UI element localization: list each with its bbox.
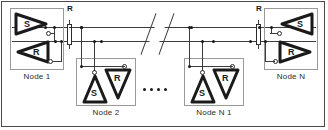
junction-dot-node1-top: [53, 26, 56, 29]
ellipsis-dot-1: [143, 88, 146, 91]
ellipsis-dot-3: [157, 88, 160, 91]
resistor-right-lead-bottom: [258, 44, 259, 49]
junction-dot-bus-right-b: [249, 40, 252, 43]
junction-dot-resistor-left-top: [80, 26, 83, 29]
node2-receiver-riser: [81, 28, 82, 67]
node-label-node1: Node 1: [10, 72, 64, 81]
ellipsis-dot-2: [150, 88, 153, 91]
junction-dot-node1-bottom: [60, 40, 63, 43]
junction-dot-bus-mid-right: [190, 26, 193, 29]
junction-dot-nodeN-bottom: [264, 40, 267, 43]
resistor-left-lead-top: [69, 20, 70, 25]
junction-dot-bus-left-a: [44, 26, 47, 29]
junction-dot-nodeN-top: [270, 26, 273, 29]
junction-dot-node2-bus-bottom: [93, 40, 96, 43]
receiver-triangle-nodeN1[interactable]: R: [212, 68, 240, 100]
junction-dot-bus-left-b: [54, 40, 57, 43]
junction-dot-nodeN1-bus-bottom: [201, 40, 204, 43]
node2-receiver-top-wire: [81, 66, 125, 67]
resistor-label-right: R: [256, 4, 262, 13]
node-label-node2: Node 2: [76, 108, 136, 117]
node-label-nodeN1: Node N 1: [184, 108, 244, 117]
nodeN1-receiver-riser: [189, 28, 190, 67]
node1-receiver-riser: [61, 41, 62, 62]
resistor-left-lead-bottom: [69, 44, 70, 49]
junction-dot-node2-branch: [80, 65, 83, 68]
nodes-ellipsis: [143, 88, 167, 91]
junction-dot-nodeN1-branch: [188, 65, 191, 68]
receiver-triangle-node2[interactable]: R: [104, 68, 132, 100]
junction-dot-resistor-right-top: [258, 26, 261, 29]
nodeN1-receiver-top-wire: [189, 66, 233, 67]
bus-network-diagram: R R Node 1 S R Node 2 S: [0, 0, 328, 130]
junction-dot-bus-mid-left: [100, 40, 103, 43]
ellipsis-dot-4: [164, 88, 167, 91]
receiver-triangle-nodeN[interactable]: R: [278, 40, 312, 64]
resistor-left-tap-top: [69, 27, 71, 28]
nodeN-receiver-riser: [265, 41, 266, 62]
resistor-label-left: R: [67, 4, 73, 13]
junction-dot-bus-right-a: [212, 40, 215, 43]
resistor-right-lead-top: [258, 20, 259, 25]
node-label-nodeN: Node N: [264, 72, 318, 81]
node1-tap-top: [54, 27, 55, 41]
sender-triangle-node1[interactable]: S: [14, 12, 48, 36]
sender-triangle-nodeN[interactable]: S: [280, 12, 314, 36]
nodeN-receiver-in-wire: [265, 61, 275, 62]
receiver-triangle-node1[interactable]: R: [16, 40, 50, 64]
